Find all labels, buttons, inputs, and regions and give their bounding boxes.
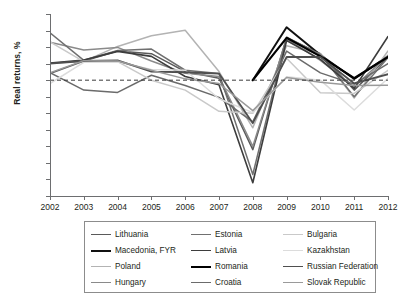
x-tick	[118, 196, 119, 200]
legend-label: Macedonia, FYR	[115, 247, 176, 255]
y-tick	[46, 179, 50, 180]
legend-grid: LithuaniaEstoniaBulgariaMacedonia, FYRLa…	[91, 227, 371, 291]
legend-item[interactable]: Estonia	[191, 231, 283, 239]
series-svg	[50, 14, 388, 196]
x-tick	[253, 196, 254, 200]
legend-label: Romania	[215, 263, 248, 271]
x-tick	[185, 196, 186, 200]
legend-label: Hungary	[115, 279, 146, 287]
legend-label: Russian Federation	[307, 263, 378, 271]
legend-swatch-line-icon	[191, 282, 211, 283]
legend-item[interactable]: Croatia	[191, 279, 283, 287]
y-tick	[46, 47, 50, 48]
legend-label: Bulgaria	[307, 231, 337, 239]
legend-label: Slovak Republic	[307, 279, 366, 287]
legend-item[interactable]: Macedonia, FYR	[91, 247, 191, 255]
legend-item[interactable]: Kazakhstan	[283, 247, 379, 255]
plot-area: 2002200320042005200620072008200920102011…	[50, 14, 388, 196]
legend-item[interactable]: Russian Federation	[283, 263, 379, 271]
y-tick	[46, 146, 50, 147]
series-line	[50, 37, 388, 183]
legend-swatch-line-icon	[283, 234, 303, 235]
y-tick	[46, 163, 50, 164]
legend-label: Latvia	[215, 247, 237, 255]
y-tick	[46, 14, 50, 15]
y-axis-line	[50, 14, 51, 196]
y-tick	[46, 113, 50, 114]
x-tick	[320, 196, 321, 200]
x-tick	[354, 196, 355, 200]
x-tick	[84, 196, 85, 200]
chart-legend: LithuaniaEstoniaBulgariaMacedonia, FYRLa…	[84, 221, 376, 293]
y-tick	[46, 97, 50, 98]
y-tick	[46, 31, 50, 32]
legend-swatch-line-icon	[283, 250, 303, 251]
legend-swatch-line-icon	[283, 282, 303, 283]
x-tick	[151, 196, 152, 200]
legend-item[interactable]: Latvia	[191, 247, 283, 255]
x-tick-label: 2012	[366, 202, 409, 212]
legend-swatch-line-icon	[91, 282, 111, 283]
legend-swatch-line-icon	[191, 234, 211, 235]
legend-label: Croatia	[215, 279, 241, 287]
legend-item[interactable]: Lithuania	[91, 231, 191, 239]
x-tick	[50, 196, 51, 200]
legend-item[interactable]: Hungary	[91, 279, 191, 287]
series-canvas	[50, 14, 388, 196]
legend-item[interactable]: Romania	[191, 263, 283, 271]
legend-label: Kazakhstan	[307, 247, 350, 255]
legend-label: Lithuania	[115, 231, 148, 239]
x-tick	[287, 196, 288, 200]
legend-swatch-line-icon	[191, 250, 211, 251]
y-tick	[46, 130, 50, 131]
legend-label: Estonia	[215, 231, 242, 239]
y-tick	[46, 80, 50, 81]
y-axis-title: Real returns, %	[12, 18, 22, 128]
x-tick	[388, 196, 389, 200]
chart-figure: Real returns, % 200220032004200520062007…	[0, 0, 409, 301]
legend-swatch-line-icon	[91, 234, 111, 235]
legend-label: Poland	[115, 263, 141, 271]
y-tick	[46, 64, 50, 65]
x-tick	[219, 196, 220, 200]
legend-swatch-line-icon	[91, 266, 111, 267]
legend-item[interactable]: Slovak Republic	[283, 279, 379, 287]
legend-swatch-line-icon	[91, 250, 111, 252]
legend-item[interactable]: Bulgaria	[283, 231, 379, 239]
legend-item[interactable]: Poland	[91, 263, 191, 271]
legend-swatch-line-icon	[283, 266, 303, 267]
legend-swatch-line-icon	[191, 266, 211, 268]
